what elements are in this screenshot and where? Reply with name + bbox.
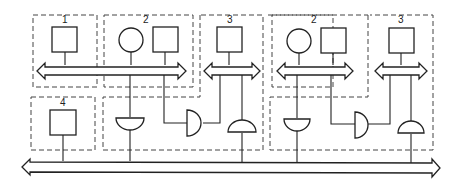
- module-2b-square: [321, 28, 346, 53]
- module-2-label: 2: [143, 14, 149, 25]
- module-2b-circle: [287, 29, 311, 53]
- gate-a2: [187, 110, 201, 136]
- local-bus-2b-arrow: [277, 63, 353, 79]
- module-4-square: [50, 110, 76, 135]
- module-1-square: [52, 27, 77, 52]
- module-3b-label: 3: [398, 14, 404, 25]
- wire-bus2-to-gate-a2: [164, 75, 187, 123]
- wire-bus3-to-gate-a2: [203, 75, 220, 123]
- module-3-square: [217, 27, 242, 52]
- gate-b3: [398, 121, 424, 133]
- gate-a3: [228, 120, 256, 132]
- system-bus-arrow: [22, 159, 440, 177]
- module-2-circle: [119, 28, 143, 52]
- wire-bus3b-to-gate-b2: [368, 75, 390, 124]
- component-stubs: [65, 52, 401, 65]
- gate-a1: [116, 118, 144, 130]
- module-2b-label: 2: [311, 14, 317, 25]
- architecture-diagram: 1 2 3 2 3 4: [0, 0, 461, 185]
- module-2-square: [153, 27, 178, 52]
- module-4-label: 4: [60, 97, 66, 108]
- local-bus-3-arrow: [204, 63, 260, 79]
- gate-b2: [355, 112, 368, 138]
- module-1-label: 1: [62, 14, 68, 25]
- module-3-label: 3: [227, 14, 233, 25]
- gate-b1: [284, 119, 310, 131]
- local-bus-3b-arrow: [375, 63, 427, 79]
- wire-bus2b-to-gate-b2: [331, 75, 355, 124]
- module-3b-square: [389, 28, 414, 53]
